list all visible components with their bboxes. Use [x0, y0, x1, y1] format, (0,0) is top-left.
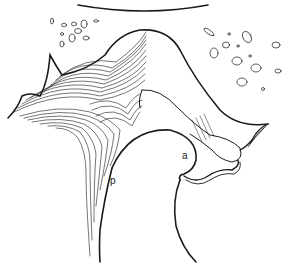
blobs-left — [51, 18, 99, 47]
line-drawing — [0, 0, 289, 268]
blobs-right — [203, 27, 281, 91]
disc-outline — [142, 90, 241, 162]
upper-outline — [8, 30, 268, 125]
top-arc-line — [78, 5, 208, 11]
condyle-neck-right — [175, 180, 196, 262]
label-p: p — [110, 176, 116, 186]
label-a: a — [182, 151, 188, 161]
anatomical-illustration: a p — [0, 0, 289, 268]
fiber-lines — [14, 32, 146, 256]
